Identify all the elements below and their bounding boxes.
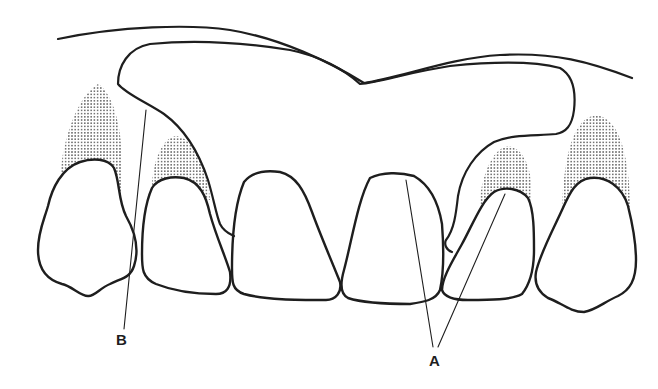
tooth-left-central [341,173,443,304]
palate-outline [58,27,632,83]
label-a: A [429,352,440,369]
dental-diagram: B A [0,0,658,389]
tooth-right-central [232,171,340,300]
gingiva-stipple [60,84,630,222]
tooth-left-canine [536,178,637,312]
label-b: B [116,331,127,348]
tooth-right-lateral [142,177,230,294]
